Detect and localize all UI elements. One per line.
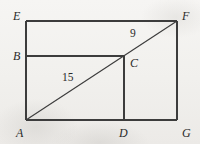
figure-line-art — [0, 0, 200, 144]
vertex-label-E: E — [13, 10, 20, 22]
vertex-label-A: A — [16, 127, 23, 139]
vertex-label-B: B — [13, 50, 20, 62]
geometry-diagram: E F B C A D G 15 9 — [0, 0, 200, 144]
segment-diagonal-AF — [26, 21, 177, 120]
vertex-label-F: F — [182, 10, 189, 22]
vertex-label-C: C — [130, 57, 138, 69]
measure-label-segment-AC: 15 — [62, 72, 74, 84]
vertex-label-D: D — [119, 127, 128, 139]
vertex-label-G: G — [182, 127, 191, 139]
measure-label-segment-CF: 9 — [130, 28, 136, 40]
